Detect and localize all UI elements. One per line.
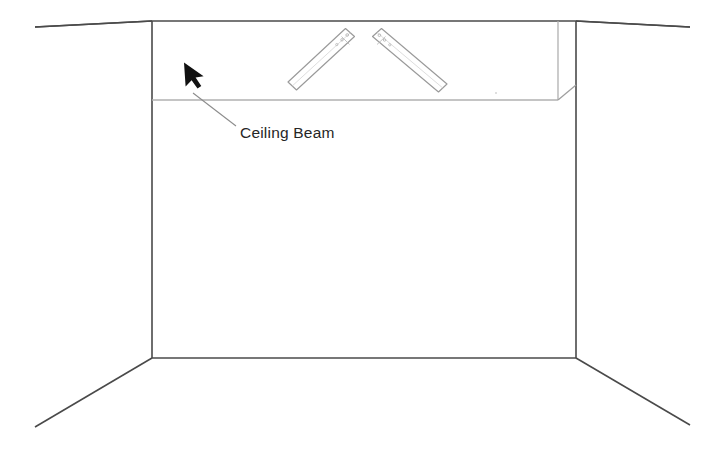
annotation-leader-line: [193, 93, 236, 126]
floor-right-edge-line: [576, 358, 690, 425]
right-wall-ceiling-slope: [576, 21, 690, 27]
rod-left-group: [288, 29, 355, 91]
ceiling-beam-return-edge-line: [558, 85, 576, 100]
back-wall-group: [152, 21, 576, 358]
ceiling-beam-faint-mark: [495, 92, 497, 94]
diagram-canvas: Ceiling Beam: [0, 0, 722, 451]
floor-left-edge-line: [35, 358, 152, 427]
room-perspective-drawing: Ceiling Beam: [0, 0, 722, 451]
left-wall-ceiling-slope: [35, 21, 152, 27]
rod-right-group: [373, 29, 448, 93]
annotation-arrow-icon: [184, 63, 204, 89]
ceiling-beam-group: [152, 21, 576, 100]
diagonal-rod-right-seam: [377, 33, 443, 89]
annotation-label: Ceiling Beam: [240, 124, 335, 141]
perspective-lines-group: [35, 21, 690, 427]
diagonal-rod-left-seam: [292, 33, 350, 87]
side-wall-group: [35, 21, 690, 27]
